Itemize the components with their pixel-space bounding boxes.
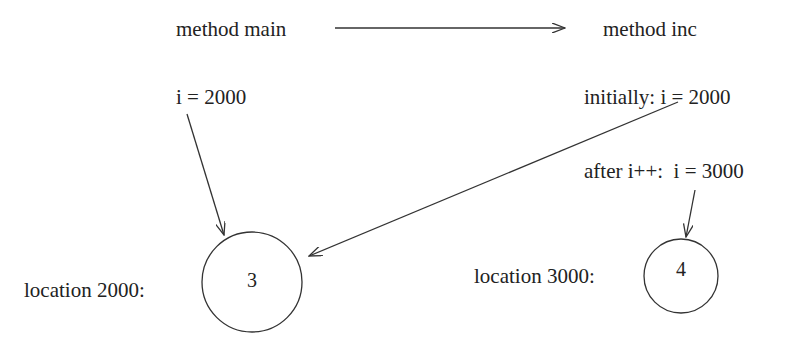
inc-initial-label: initially: i = 2000 xyxy=(584,85,731,109)
memory-cell-2000-value: 3 xyxy=(247,269,257,291)
location-2000-label: location 2000: xyxy=(24,278,145,302)
method-main-title: method main xyxy=(176,17,287,41)
diagram-canvas: method main method inc i = 2000 location… xyxy=(0,0,800,343)
inc-after-label: after i++: i = 3000 xyxy=(584,159,744,183)
inc-after-pointer-arrow xyxy=(686,190,695,237)
main-variable-label: i = 2000 xyxy=(176,85,246,109)
memory-cell-3000-value: 4 xyxy=(676,258,686,280)
method-inc-title: method inc xyxy=(603,17,697,41)
main-pointer-arrow xyxy=(187,114,224,235)
location-3000-label: location 3000: xyxy=(474,264,595,288)
pointer-diagram: method main method inc i = 2000 location… xyxy=(0,0,800,343)
